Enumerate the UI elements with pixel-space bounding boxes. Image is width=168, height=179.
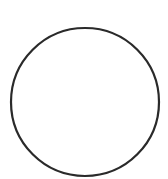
circle-outline — [11, 28, 159, 176]
canvas — [0, 0, 168, 179]
